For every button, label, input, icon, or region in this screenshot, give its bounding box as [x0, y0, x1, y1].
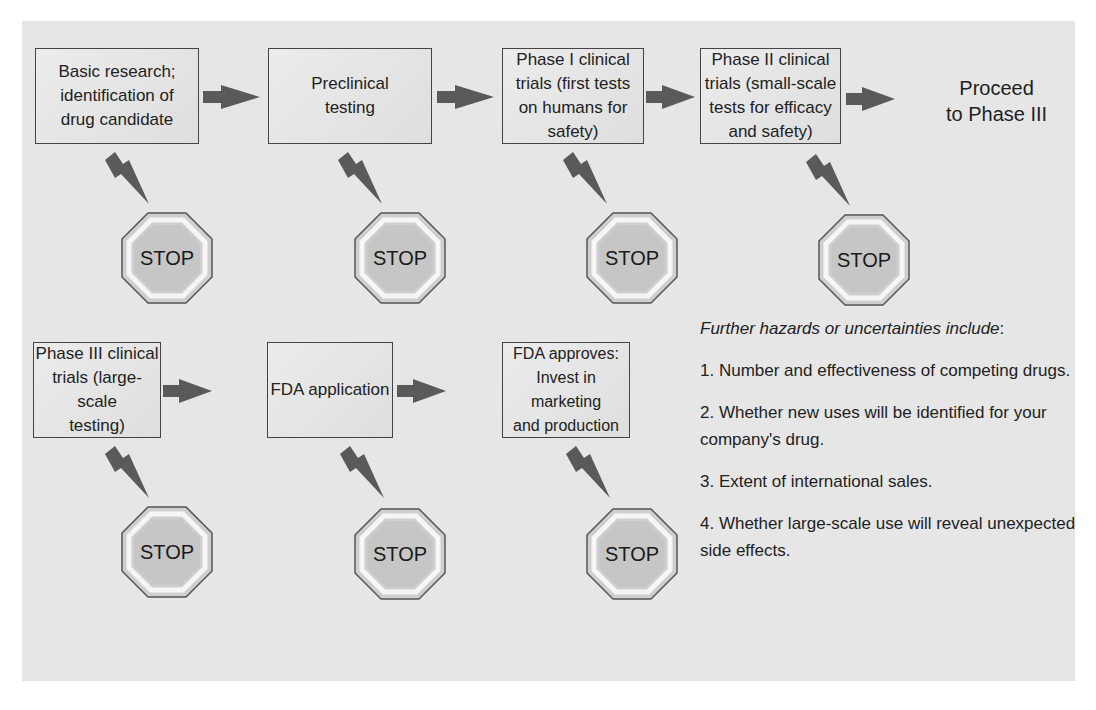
- arrow-right-icon: [203, 85, 261, 109]
- note-item: 4. Whether large-scale use will reveal u…: [700, 510, 1080, 564]
- arrow-right-icon: [646, 85, 696, 109]
- step-preclinical-testing: Preclinical testing: [268, 48, 432, 144]
- arrow-down-right-icon: [105, 152, 155, 207]
- stop-sign-icon: STOP: [121, 212, 213, 304]
- stop-sign-icon: STOP: [354, 212, 446, 304]
- stop-sign-icon: STOP: [121, 506, 213, 598]
- stop-label: STOP: [121, 506, 213, 598]
- step-fda-approves: FDA approves: Invest in marketing and pr…: [502, 342, 630, 438]
- note-item: 2. Whether new uses will be identified f…: [700, 399, 1080, 453]
- stop-label: STOP: [354, 508, 446, 600]
- arrow-right-icon: [163, 379, 213, 403]
- stop-label: STOP: [354, 212, 446, 304]
- stop-sign-icon: STOP: [354, 508, 446, 600]
- arrow-down-right-icon: [563, 152, 613, 207]
- step-phase-3-trials: Phase III clinical trials (large-scale t…: [33, 342, 161, 438]
- proceed-to-phase-3-label: Proceed to Phase III: [946, 75, 1047, 127]
- stop-label: STOP: [818, 214, 910, 306]
- arrow-down-right-icon: [338, 152, 388, 207]
- arrow-down-right-icon: [340, 446, 390, 501]
- stop-label: STOP: [586, 508, 678, 600]
- note-item: 1. Number and effectiveness of competing…: [700, 357, 1080, 384]
- step-phase-2-trials: Phase II clinical trials (small-scale te…: [700, 48, 841, 144]
- stop-label: STOP: [586, 212, 678, 304]
- hazards-notes: Further hazards or uncertainties include…: [700, 315, 1080, 564]
- arrow-right-icon: [437, 85, 495, 109]
- stop-sign-icon: STOP: [586, 508, 678, 600]
- step-basic-research: Basic research; identification of drug c…: [35, 48, 199, 144]
- arrow-down-right-icon: [806, 154, 856, 209]
- arrow-right-icon: [397, 379, 447, 403]
- stop-sign-icon: STOP: [586, 212, 678, 304]
- arrow-down-right-icon: [566, 446, 616, 501]
- arrow-right-icon: [846, 87, 896, 111]
- stop-sign-icon: STOP: [818, 214, 910, 306]
- step-phase-1-trials: Phase I clinical trials (first tests on …: [502, 48, 644, 144]
- step-fda-application: FDA application: [267, 342, 393, 438]
- notes-heading: Further hazards or uncertainties include…: [700, 315, 1080, 342]
- arrow-down-right-icon: [105, 446, 155, 501]
- stop-label: STOP: [121, 212, 213, 304]
- note-item: 3. Extent of international sales.: [700, 468, 1080, 495]
